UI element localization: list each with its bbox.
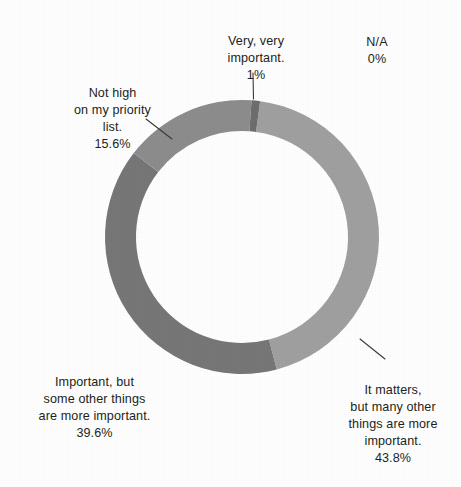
slice-label-percent: 43.8% [330,450,456,467]
slice-label-it-matters: It matters, but many other things are mo… [330,365,456,484]
chart-page: Very, very important. 1% N/A 0% Not high… [0,0,461,487]
slice-label-very-very-important: Very, very important. 1% [186,16,326,101]
donut-slice-important-but-some[interactable] [105,153,277,374]
slice-label-text: Important, but some other things are mor… [39,375,151,423]
donut-slice-it-matters[interactable] [256,101,379,369]
slice-label-text: Not high on my priority list. [74,86,151,134]
slice-label-text: N/A [366,35,387,49]
slice-label-not-high-priority: Not high on my priority list. 15.6% [40,68,185,170]
slice-label-na: N/A 0% [322,17,432,85]
slice-label-percent: 39.6% [2,425,187,442]
slice-label-important-but-some: Important, but some other things are mor… [2,357,187,459]
slice-label-text: It matters, but many other things are mo… [349,383,438,448]
slice-label-percent: 0% [322,51,432,68]
leader-line-it-matters [360,339,385,359]
slice-label-percent: 1% [186,67,326,84]
slice-label-percent: 15.6% [40,136,185,153]
slice-label-text: Very, very important. [228,34,285,65]
